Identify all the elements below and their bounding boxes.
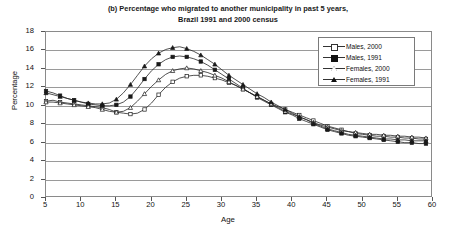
legend-label: Males, 2000 — [345, 43, 382, 50]
y-tick-label: 4 — [8, 156, 34, 164]
data-point — [213, 68, 216, 71]
data-point — [199, 74, 202, 77]
x-tick-label: 15 — [103, 200, 127, 209]
x-tick-label: 50 — [350, 200, 374, 209]
legend-label: Females, 2000 — [345, 65, 390, 72]
legend-item-males-2000[interactable]: Males, 2000 — [319, 41, 414, 52]
legend-item-males-1991[interactable]: Males, 1991 — [319, 52, 414, 63]
y-tick-label: 16 — [8, 45, 34, 53]
data-point — [171, 80, 174, 83]
chart-title-line-2: Brazil 1991 and 2000 census — [0, 14, 456, 25]
y-tick-label: 6 — [8, 138, 34, 146]
data-point — [185, 75, 188, 78]
data-point — [199, 60, 202, 63]
filled-square-marker-icon — [323, 53, 345, 62]
legend-label: Males, 1991 — [345, 54, 382, 61]
data-point — [199, 53, 203, 57]
x-tick-label: 35 — [244, 200, 268, 209]
chart-title-line-1: (b) Percentage who migrated to another m… — [0, 3, 456, 14]
data-point — [115, 103, 118, 106]
data-point — [143, 108, 146, 111]
data-point — [213, 62, 217, 66]
data-point — [157, 93, 160, 96]
data-point — [255, 92, 259, 96]
x-tick-label: 40 — [279, 200, 303, 209]
data-point — [171, 55, 174, 58]
chart-legend: Males, 2000 Males, 1991 Females, 2000 Fe… — [318, 37, 415, 86]
x-tick-label: 55 — [385, 200, 409, 209]
legend-item-females-2000[interactable]: Females, 2000 — [319, 63, 414, 74]
open-triangle-marker-icon — [323, 64, 345, 73]
x-tick-label: 25 — [174, 200, 198, 209]
data-point — [129, 112, 132, 115]
open-square-marker-icon — [323, 42, 345, 51]
data-point — [129, 95, 132, 98]
data-point — [156, 51, 160, 55]
data-point — [185, 55, 188, 58]
filled-triangle-marker-icon — [323, 75, 345, 84]
chart-title: (b) Percentage who migrated to another m… — [0, 3, 456, 25]
x-tick-label: 30 — [209, 200, 233, 209]
legend-item-females-1991[interactable]: Females, 1991 — [319, 74, 414, 85]
y-tick-label: 10 — [8, 101, 34, 109]
y-tick-label: 2 — [8, 175, 34, 183]
data-point — [143, 77, 146, 80]
legend-label: Females, 1991 — [345, 76, 390, 83]
y-tick-label: 14 — [8, 64, 34, 72]
x-axis-label: Age — [0, 215, 456, 224]
x-tick-label: 5 — [33, 200, 57, 209]
y-tick-label: 8 — [8, 119, 34, 127]
x-tick-label: 10 — [68, 200, 92, 209]
y-tick-label: 0 — [8, 193, 34, 201]
x-tick-label: 45 — [314, 200, 338, 209]
data-point — [157, 63, 160, 66]
y-tick-label: 18 — [8, 27, 34, 35]
chart-figure: (b) Percentage who migrated to another m… — [0, 0, 456, 241]
y-tick-label: 12 — [8, 82, 34, 90]
x-tick-label: 20 — [139, 200, 163, 209]
x-tick-label: 60 — [420, 200, 444, 209]
data-point — [241, 82, 245, 86]
